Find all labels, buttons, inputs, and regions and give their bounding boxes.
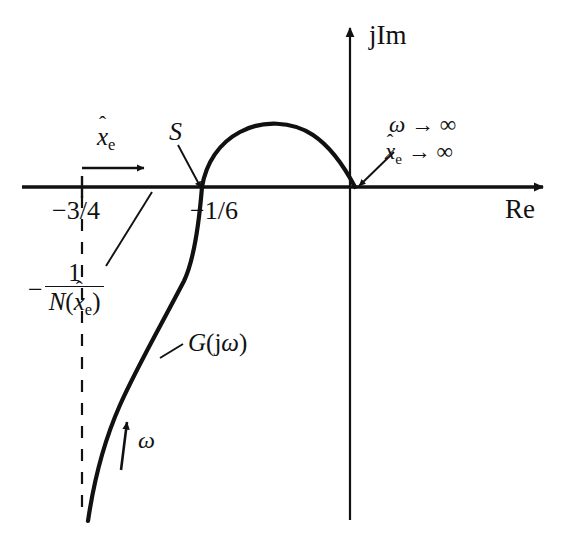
g-jomega-curve — [88, 124, 355, 521]
real-axis-label: Re — [505, 196, 535, 223]
nyquist-plot-figure: jIm Re −3/4 −1/6 S ̂xe ω → ∞ ̂xe → ∞ G(j… — [0, 0, 573, 546]
fraction-denominator: N(̂xe) — [45, 286, 105, 319]
omega-direction-arrow — [121, 422, 127, 470]
tick-label-minus-one-sixth: −1/6 — [190, 198, 238, 224]
omega-direction-label: ω — [138, 428, 155, 452]
imaginary-axis-label: jIm — [369, 22, 407, 49]
gjomega-leader-line — [160, 344, 183, 358]
negative-inverse-describing-function-label: − 1 N(̂xe) — [28, 260, 104, 319]
amplitude-axis-label: ̂xe — [97, 124, 115, 154]
minus-sign: − — [28, 277, 43, 303]
transfer-function-label: G(jω) — [188, 330, 247, 355]
fraction: 1 N(̂xe) — [45, 260, 105, 319]
s-leader-line — [178, 145, 201, 188]
inverse-n-leader-line — [106, 192, 152, 266]
omega-to-infinity-label: ω → ∞ — [389, 113, 456, 136]
tick-label-minus-three-quarters: −3/4 — [52, 198, 100, 224]
fraction-numerator: 1 — [62, 260, 87, 286]
amplitude-to-infinity-label: ̂xe → ∞ — [385, 140, 453, 166]
intersection-point-label: S — [169, 119, 182, 145]
